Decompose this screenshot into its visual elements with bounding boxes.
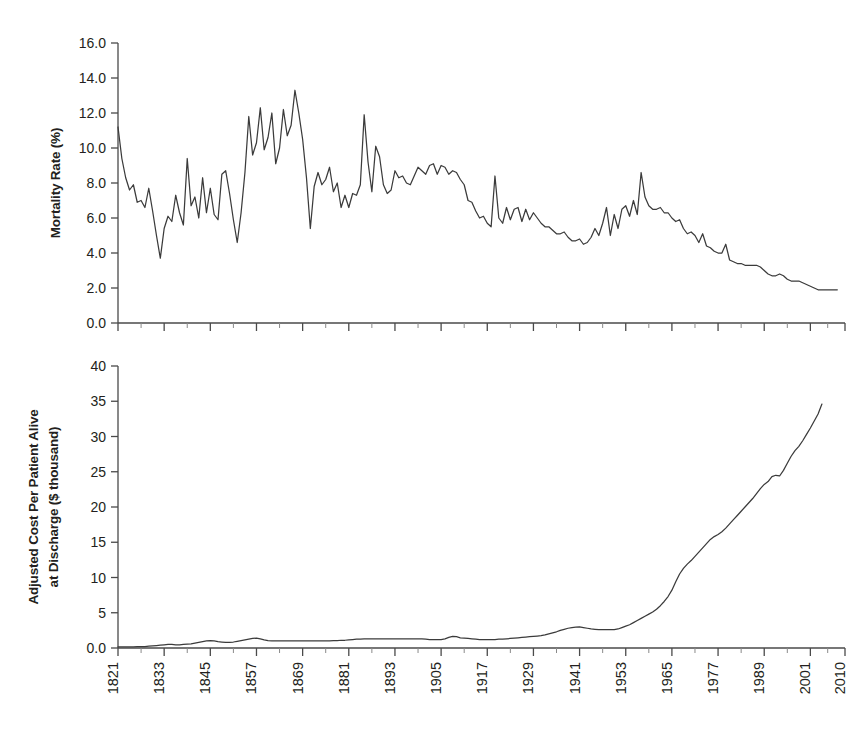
x-tick-label: 1869 xyxy=(290,662,306,694)
y-tick-label: 0.0 xyxy=(87,315,107,331)
y-tick-label: 25 xyxy=(90,464,106,480)
y-tick-label: 2.0 xyxy=(87,280,107,296)
top-panel-y-axis-label: Mortality Rate (%) xyxy=(48,128,63,238)
x-tick-label: 1857 xyxy=(243,662,259,694)
x-tick-label: 1965 xyxy=(659,662,675,694)
x-tick-label: 1929 xyxy=(520,662,536,694)
y-tick-label: 0.0 xyxy=(87,640,107,656)
y-tick-label: 10.0 xyxy=(79,140,106,156)
y-tick-label: 4.0 xyxy=(87,245,107,261)
x-tick-label: 1977 xyxy=(705,662,721,694)
y-tick-label: 40 xyxy=(90,358,106,374)
bottom-panel-y-axis-label-line2: at Discharge ($ thousand) xyxy=(46,427,61,588)
y-tick-label: 14.0 xyxy=(79,70,106,86)
x-tick-label: 1821 xyxy=(105,662,121,694)
dual-panel-line-chart-figure: 0.02.04.06.08.010.012.014.016.0 Mortalit… xyxy=(0,0,858,729)
y-tick-label: 16.0 xyxy=(79,35,106,51)
y-tick-label: 12.0 xyxy=(79,105,106,121)
y-tick-label: 6.0 xyxy=(87,210,107,226)
x-tick-label: 1845 xyxy=(197,662,213,694)
y-tick-label: 15 xyxy=(90,534,106,550)
x-tick-label: 2010 xyxy=(832,662,848,694)
y-tick-label: 20 xyxy=(90,499,106,515)
x-tick-label: 1905 xyxy=(428,662,444,694)
x-tick-label: 1881 xyxy=(336,662,352,694)
figure-background xyxy=(0,0,858,729)
x-tick-label: 1917 xyxy=(474,662,490,694)
x-tick-label: 1833 xyxy=(151,662,167,694)
x-tick-label: 1893 xyxy=(382,662,398,694)
bottom-panel-y-axis-label-line1: Adjusted Cost Per Patient Alive xyxy=(26,409,41,605)
y-tick-label: 8.0 xyxy=(87,175,107,191)
y-tick-label: 10 xyxy=(90,570,106,586)
x-tick-label: 1989 xyxy=(751,662,767,694)
x-tick-label: 2001 xyxy=(797,662,813,694)
y-tick-label: 5 xyxy=(98,605,106,621)
x-tick-label: 1941 xyxy=(567,662,583,694)
y-tick-label: 30 xyxy=(90,429,106,445)
y-tick-label: 35 xyxy=(90,393,106,409)
x-tick-label: 1953 xyxy=(613,662,629,694)
